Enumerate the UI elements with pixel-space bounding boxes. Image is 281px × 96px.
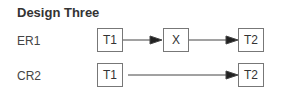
arrow-connectors [0, 0, 281, 96]
